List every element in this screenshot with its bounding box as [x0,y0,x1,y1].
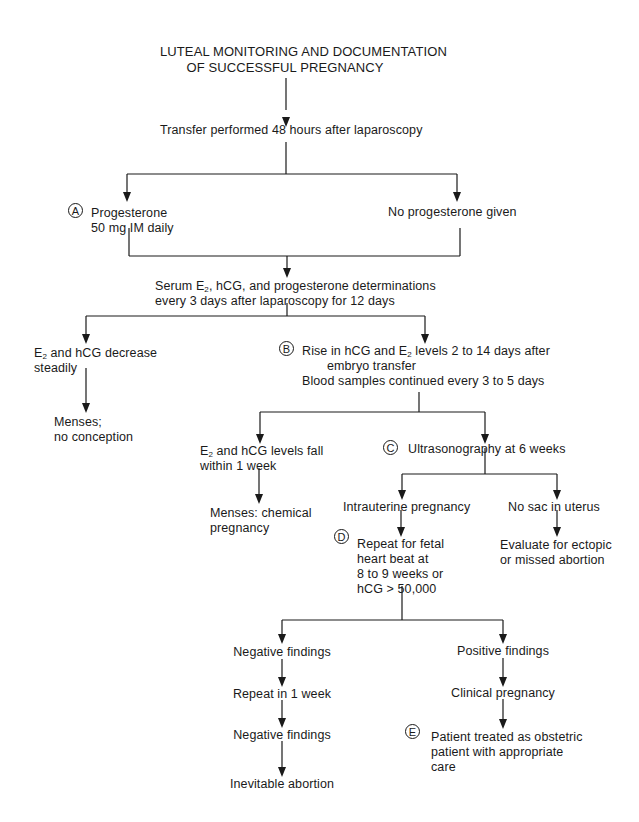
serum-line-1: Serum E2, hCG, and progesterone determin… [155,279,436,294]
node-e2-hcg-fall: E2 and hCG levels fall within 1 week [200,444,323,474]
repeat-fetal-line-1: Repeat for fetal [357,537,444,552]
repeat-week-text: Repeat in 1 week [233,687,331,701]
node-positive-findings: Positive findings [446,644,560,659]
clinical-text: Clinical pregnancy [451,686,555,700]
rise-line-1: Rise in hCG and E2 levels 2 to 14 days a… [302,344,550,359]
no-sac-text: No sac in uterus [508,500,600,514]
negative-2-text: Negative findings [233,728,331,742]
decrease-line-2: steadily [34,361,157,376]
decrease-line-1: E2 and hCG decrease [34,346,157,361]
progesterone-line-2: 50 mg IM daily [91,221,174,236]
menses-line-2: no conception [54,430,133,445]
title-line-2: OF SUCCESSFUL PREGNANCY [160,60,410,76]
diagram-title: LUTEAL MONITORING AND DOCUMENTATION OF S… [160,44,410,76]
node-ultrasonography: Ultrasonography at 6 weeks [408,442,566,457]
node-intrauterine-pregnancy: Intrauterine pregnancy [343,500,470,515]
serum-line-2: every 3 days after laparoscopy for 12 da… [155,294,436,309]
progesterone-line-1: Progesterone [91,206,174,221]
node-no-progesterone: No progesterone given [388,205,517,220]
rise-line-2: embryo transfer [302,359,550,374]
node-patient-treated: Patient treated as obstetric patient wit… [431,730,583,775]
marker-b-icon: B [279,341,294,356]
marker-e-icon: E [405,724,420,739]
node-rise-hcg: Rise in hCG and E2 levels 2 to 14 days a… [302,344,550,389]
chemical-line-2: pregnancy [210,521,312,536]
marker-c-icon: C [383,440,398,455]
no-progesterone-text: No progesterone given [388,205,517,219]
fall-line-1: E2 and hCG levels fall [200,444,323,459]
ultrasonography-text: Ultrasonography at 6 weeks [408,442,566,456]
repeat-fetal-line-2: heart beat at [357,552,444,567]
flowchart: LUTEAL MONITORING AND DOCUMENTATION OF S… [0,0,639,822]
node-repeat-1-week: Repeat in 1 week [222,687,342,702]
fall-line-2: within 1 week [200,459,323,474]
chemical-line-1: Menses: chemical [210,506,312,521]
title-line-1: LUTEAL MONITORING AND DOCUMENTATION [160,44,410,60]
transfer-text: Transfer performed 48 hours after laparo… [160,123,423,137]
node-negative-findings-1: Negative findings [222,645,342,660]
menses-line-1: Menses; [54,415,133,430]
node-transfer: Transfer performed 48 hours after laparo… [160,123,423,138]
patient-line-2: patient with appropriate [431,745,583,760]
node-serum-determinations: Serum E2, hCG, and progesterone determin… [155,279,436,309]
intrauterine-text: Intrauterine pregnancy [343,500,470,514]
node-clinical-pregnancy: Clinical pregnancy [446,686,560,701]
repeat-fetal-line-4: hCG > 50,000 [357,582,444,597]
inevitable-text: Inevitable abortion [230,777,334,791]
node-e2-hcg-decrease: E2 and hCG decrease steadily [34,346,157,376]
node-menses-no-conception: Menses; no conception [54,415,133,445]
node-negative-findings-2: Negative findings [222,728,342,743]
evaluate-line-1: Evaluate for ectopic [500,538,612,553]
positive-text: Positive findings [457,644,549,658]
patient-line-3: care [431,760,583,775]
repeat-fetal-line-3: 8 to 9 weeks or [357,567,444,582]
marker-a-icon: A [68,203,83,218]
node-chemical-pregnancy: Menses: chemical pregnancy [210,506,312,536]
node-no-sac: No sac in uterus [508,500,600,515]
patient-line-1: Patient treated as obstetric [431,730,583,745]
marker-d-icon: D [334,529,349,544]
node-evaluate-ectopic: Evaluate for ectopic or missed abortion [500,538,612,568]
node-progesterone: Progesterone 50 mg IM daily [91,206,174,236]
rise-line-3: Blood samples continued every 3 to 5 day… [302,374,550,389]
node-repeat-fetal-heartbeat: Repeat for fetal heart beat at 8 to 9 we… [357,537,444,597]
negative-1-text: Negative findings [233,645,331,659]
node-inevitable-abortion: Inevitable abortion [217,777,347,792]
evaluate-line-2: or missed abortion [500,553,612,568]
